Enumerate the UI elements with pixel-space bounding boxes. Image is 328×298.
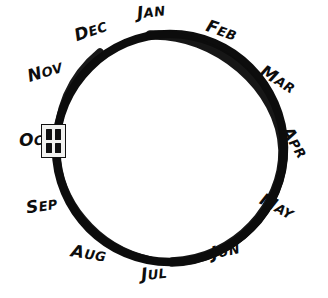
marker-cell-top-left	[46, 129, 52, 140]
month-rest-jan: AN	[143, 3, 166, 21]
month-label-jul: JUL	[140, 264, 168, 284]
marker-cell-bottom-left	[46, 143, 52, 154]
cycle-diagram: JAN FEB MAR APR MAY JUN JUL AUG SEP OCT …	[0, 0, 328, 298]
month-rest-sep: EP	[38, 197, 59, 215]
month-rest-jul: UL	[147, 266, 168, 283]
month-label-jan: JAN	[136, 1, 166, 21]
marker-cell-top-right	[55, 129, 61, 140]
marker-cell-bottom-right	[55, 143, 61, 154]
cycle-ring	[56, 34, 284, 262]
cycle-marker-widget[interactable]	[41, 124, 66, 158]
month-rest-aug: UG	[83, 246, 107, 264]
month-lead-oct: O	[18, 129, 34, 150]
